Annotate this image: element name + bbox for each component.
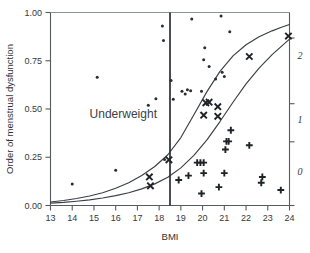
data-point-dot (202, 58, 205, 61)
x-tick-label-2: 15 (89, 213, 99, 223)
data-point-cross (215, 103, 221, 109)
data-point-cross (166, 157, 172, 163)
x-tick-label-4: 17 (132, 213, 142, 223)
data-point-dot (208, 65, 211, 68)
data-point-cross (246, 53, 252, 59)
data-point-plus (258, 179, 265, 186)
data-point-cross (285, 33, 291, 39)
y-right-label-0: 0 (298, 166, 303, 177)
data-point-dot (180, 90, 183, 93)
y-axis-title: Order of menstrual dysfunction (4, 44, 15, 174)
y-tick-label-1: 0.25 (24, 152, 42, 162)
data-point-plus (227, 127, 234, 134)
data-point-plus (246, 142, 253, 149)
data-point-dot (163, 158, 166, 161)
data-point-dot (221, 71, 224, 74)
data-point-plus (215, 184, 222, 191)
underweight-annotation-label: Underweight (90, 107, 158, 121)
scatter-plot-svg: 0.00 0.25 0.50 0.75 1.00 Order of menstr… (0, 0, 310, 253)
data-point-dot (161, 25, 164, 28)
y-tick-label-0: 0.00 (24, 201, 42, 211)
data-point-plus (221, 170, 228, 177)
data-point-dot (200, 90, 203, 93)
data-point-dot (71, 182, 74, 185)
data-point-dot (147, 104, 150, 107)
data-point-plus (185, 172, 192, 179)
data-point-cross (215, 113, 221, 119)
data-point-dot (96, 76, 99, 79)
data-point-dot (223, 75, 226, 78)
x-tick-label-1: 14 (67, 213, 77, 223)
data-point-dot (114, 169, 117, 172)
data-point-plus (198, 190, 205, 197)
y-tick-label-2: 0.50 (24, 104, 42, 114)
y-right-label-1: 1 (298, 114, 303, 125)
x-tick-label-0: 13 (45, 213, 55, 223)
data-point-cross (146, 174, 152, 180)
data-point-dot (190, 18, 193, 21)
data-point-plus (175, 177, 182, 184)
data-point-dot (154, 97, 157, 100)
data-point-dot (186, 88, 189, 91)
y-tick-label-4: 1.00 (24, 8, 42, 18)
x-tick-label-8: 21 (219, 213, 229, 223)
data-point-plus (200, 170, 207, 177)
data-point-dot (172, 98, 175, 101)
y-axis-right-ticks (290, 38, 295, 206)
x-tick-label-5: 18 (154, 213, 164, 223)
x-axis-title: BMI (162, 231, 179, 242)
x-axis-ticks (51, 206, 290, 211)
data-point-dot (228, 30, 231, 33)
x-tick-label-9: 22 (241, 213, 251, 223)
x-tick-label-11: 24 (284, 213, 294, 223)
data-point-plus (277, 187, 284, 194)
data-point-plus (222, 146, 229, 153)
data-point-dot (170, 79, 173, 82)
data-point-dot (162, 39, 165, 42)
data-point-dot (184, 92, 187, 95)
x-tick-label-7: 20 (198, 213, 208, 223)
x-tick-label-6: 19 (176, 213, 186, 223)
data-point-dot (220, 14, 223, 17)
chart-figure: 0.00 0.25 0.50 0.75 1.00 Order of menstr… (0, 0, 310, 253)
data-point-dot (189, 89, 192, 92)
data-point-dot (214, 78, 217, 81)
y-axis-left-ticks (46, 13, 51, 206)
y-tick-label-3: 0.75 (24, 56, 42, 66)
data-points-group (71, 14, 292, 196)
y-right-label-2: 2 (298, 50, 303, 61)
data-point-cross (200, 112, 206, 118)
data-point-plus (259, 174, 266, 181)
x-tick-label-3: 16 (111, 213, 121, 223)
plus-observations (175, 127, 284, 197)
x-tick-label-10: 23 (263, 213, 273, 223)
data-point-dot (203, 46, 206, 49)
